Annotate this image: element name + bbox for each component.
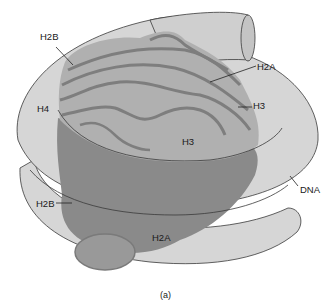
label-h4: H4 <box>37 104 49 114</box>
label-h2a-top: H2A <box>257 62 275 72</box>
label-h2a-bottom: H2A <box>152 233 170 243</box>
figure-caption: (a) <box>160 291 171 300</box>
label-h3-center: H3 <box>182 137 194 147</box>
nucleosome-illustration <box>0 0 331 308</box>
label-h2b-bottom: H2B <box>36 199 54 209</box>
label-dna: DNA <box>300 185 320 195</box>
nucleosome-diagram: H2B H2A H4 H3 H3 DNA H2B H2A (a) <box>0 0 331 308</box>
label-h2b-top: H2B <box>40 32 58 42</box>
label-h3-right: H3 <box>253 101 265 111</box>
